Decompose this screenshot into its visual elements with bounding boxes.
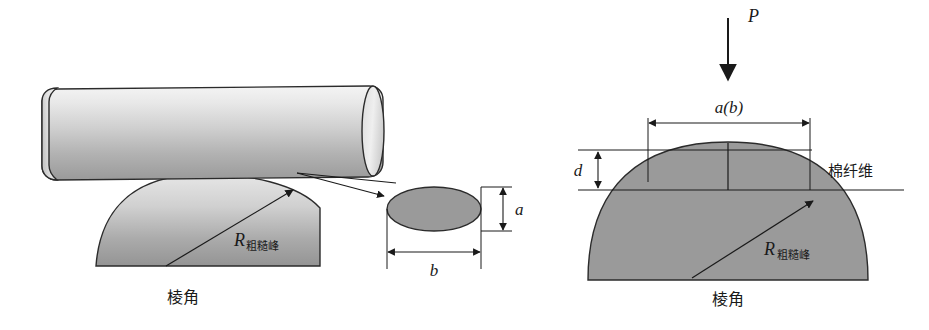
dimension-label-b: b [430, 261, 439, 280]
asperity-radius-subscript: 粗糙峰 [246, 239, 279, 253]
cylinder-shape [42, 86, 384, 180]
right-base-label: 棱角 [712, 290, 744, 309]
right-radius-subscript: 粗糙峰 [777, 248, 810, 262]
detail-panel-group: a b [387, 187, 524, 280]
dimension-label-d: d [574, 161, 583, 180]
technical-diagram: R 粗糙峰 棱角 a b [0, 0, 929, 330]
cylinder-right-cap [362, 86, 384, 176]
load-label: P [747, 6, 759, 26]
left-panel-group: R 粗糙峰 棱角 [42, 86, 384, 307]
dimension-label-a: a [515, 200, 524, 219]
right-panel-group: P 棉纤维 d a(b) R 粗糙峰 棱角 [574, 6, 904, 309]
cylinder-body [42, 86, 383, 180]
figure-container: R 粗糙峰 棱角 a b [0, 0, 929, 330]
right-radius-symbol: R [763, 239, 775, 259]
left-base-label: 棱角 [167, 288, 199, 307]
asperity-shape [96, 174, 320, 266]
contact-ellipse [387, 187, 481, 231]
dimension-label-ab: a(b) [715, 98, 744, 117]
asperity-radius-symbol: R [233, 230, 245, 250]
fiber-label: 棉纤维 [828, 162, 873, 180]
asperity-body [96, 174, 320, 266]
